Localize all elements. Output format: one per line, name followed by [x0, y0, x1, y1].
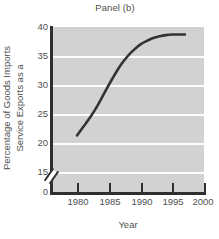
x-axis-title: Year	[52, 219, 204, 230]
chart-figure: Panel (b) 40 35 30 25 20 15 0 1980 1985 …	[0, 0, 219, 239]
chart-title: Panel (b)	[60, 2, 170, 13]
x-tick-mark-2000	[204, 183, 206, 193]
y-axis-title-line-2: Percentage of Goods Imports	[0, 18, 180, 198]
y-axis-title: Service Exports as a Percentage of Goods…	[0, 18, 28, 198]
